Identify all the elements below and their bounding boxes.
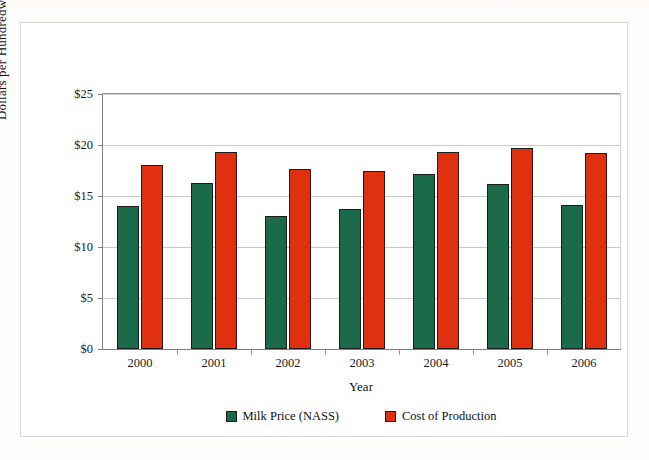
scanned-page: Dollars per Hundredweight $0$5$10$15$20$… [0,0,649,460]
bar-2002-milk-price [265,216,287,349]
x-tick-mark [473,350,474,355]
bar-2000-cost-of-production [141,165,163,349]
legend-swatch-icon [385,411,396,422]
y-tick-label: $0 [47,342,93,357]
x-tick-mark [251,350,252,355]
bar-2004-milk-price [413,174,435,349]
bar-2006-cost-of-production [585,153,607,349]
x-tick-label-2005: 2005 [475,356,545,371]
bar-2005-cost-of-production [511,148,533,349]
x-tick-mark [547,350,548,355]
legend-item: Milk Price (NASS) [226,409,340,424]
y-tick-label: $10 [47,240,93,255]
x-tick-mark [325,350,326,355]
plot-right-edge [620,93,621,349]
scan-artifact-strip [0,0,649,14]
y-tick-mark [98,298,103,299]
legend-swatch-icon [226,411,237,422]
bar-2000-milk-price [117,206,139,349]
y-tick-label: $5 [47,291,93,306]
x-tick-mark [177,350,178,355]
legend-label: Milk Price (NASS) [243,409,340,424]
y-tick-label: $20 [47,138,93,153]
y-tick-mark [98,94,103,95]
x-tick-label-2006: 2006 [549,356,619,371]
y-tick-mark [98,196,103,197]
gridline [103,145,621,146]
x-axis-label: Year [102,379,620,395]
y-tick-label: $25 [47,87,93,102]
x-tick-label-2001: 2001 [179,356,249,371]
y-tick-mark [98,247,103,248]
bar-2001-milk-price [191,183,213,349]
bar-2003-milk-price [339,209,361,349]
gridline [103,94,621,95]
chart-legend: Milk Price (NASS)Cost of Production [102,409,620,424]
y-tick-label: $15 [47,189,93,204]
bar-2002-cost-of-production [289,169,311,349]
gridline [103,196,621,197]
bar-2004-cost-of-production [437,152,459,349]
bar-2003-cost-of-production [363,171,385,350]
x-tick-label-2000: 2000 [105,356,175,371]
x-tick-label-2003: 2003 [327,356,397,371]
x-tick-mark [399,350,400,355]
gridline [103,298,621,299]
legend-item: Cost of Production [385,409,496,424]
y-tick-mark [98,145,103,146]
y-axis-label: Dollars per Hundredweight [0,0,10,120]
legend-label: Cost of Production [402,409,496,424]
bar-2005-milk-price [487,184,509,349]
x-tick-label-2004: 2004 [401,356,471,371]
bar-2001-cost-of-production [215,152,237,349]
bar-2006-milk-price [561,205,583,349]
gridline [103,247,621,248]
x-tick-label-2002: 2002 [253,356,323,371]
plot-area: $0$5$10$15$20$25200020012002200320042005… [102,93,621,350]
y-tick-mark [98,349,103,350]
